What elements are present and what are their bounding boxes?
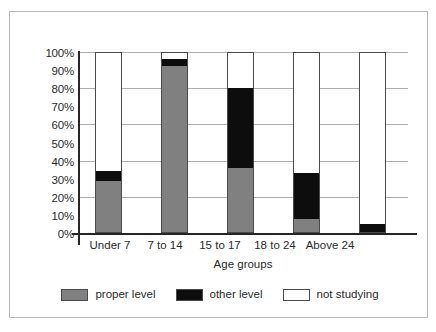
legend-label: proper level [95, 289, 155, 301]
chart-figure: 100% 90% 80% 70% 60% 50% 40% 30% 20% 10%… [9, 11, 428, 318]
bar-under-7 [95, 52, 122, 233]
y-axis-tick-labels: 100% 90% 80% 70% 60% 50% 40% 30% 20% 10%… [24, 52, 74, 233]
chart-legend: proper level other level not studying [40, 286, 400, 304]
bar-18-to-24 [293, 52, 320, 233]
bar-segment-notstudy [227, 52, 254, 88]
bar-segment-other [293, 173, 320, 218]
y-tick-label: 30% [30, 175, 74, 187]
y-tick-label: 10% [30, 211, 74, 223]
y-tick-label: 70% [30, 102, 74, 114]
legend-swatch-icon [176, 289, 203, 301]
y-tick-label: 40% [30, 157, 74, 169]
bar-segment-other [95, 171, 122, 180]
legend-label: not studying [317, 289, 379, 301]
bar-above-24 [359, 52, 386, 233]
bar-segment-other [161, 59, 188, 66]
legend-label: other level [210, 289, 263, 301]
bar-segment-notstudy [293, 52, 320, 173]
y-tick-label: 60% [30, 120, 74, 132]
y-tick-label: 80% [30, 84, 74, 96]
x-axis-title: Age groups [78, 258, 408, 270]
y-tick-label: 90% [30, 66, 74, 78]
bar-7-to-14 [161, 52, 188, 233]
bar-segment-other [359, 224, 386, 233]
y-tick-label: 100% [30, 48, 74, 60]
bar-segment-other [227, 88, 254, 168]
x-tick-label: Above 24 [290, 240, 370, 252]
y-tick-label: 20% [30, 193, 74, 205]
x-axis-spine [72, 233, 417, 235]
legend-entry-proper-level: proper level [61, 289, 155, 301]
y-tick-label: 50% [30, 139, 74, 151]
bar-segment-notstudy [95, 52, 122, 171]
legend-swatch-icon [283, 289, 310, 301]
y-tick-label: 0% [30, 229, 74, 241]
bar-segment-notstudy [161, 52, 188, 59]
x-axis-tick-labels: Under 7 7 to 14 15 to 17 18 to 24 Above … [78, 240, 408, 258]
legend-entry-other-level: other level [176, 289, 263, 301]
bar-15-to-17 [227, 52, 254, 233]
bar-segment-proper [95, 181, 122, 233]
legend-entry-not-studying: not studying [283, 289, 379, 301]
bar-segment-proper [227, 168, 254, 233]
bar-segment-proper [161, 66, 188, 233]
bar-segment-notstudy [359, 52, 386, 224]
bar-segment-proper [293, 219, 320, 233]
bars-layer [78, 52, 408, 233]
legend-swatch-icon [61, 289, 88, 301]
